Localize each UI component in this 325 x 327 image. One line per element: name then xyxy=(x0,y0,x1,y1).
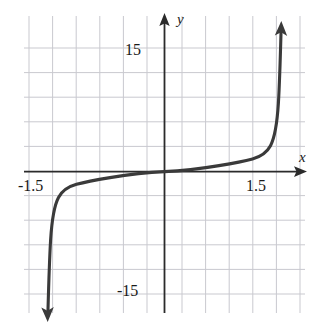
coordinate-plane xyxy=(0,0,325,327)
x-tick-label-positive: 1.5 xyxy=(246,178,266,194)
x-axis-label: x xyxy=(299,150,306,165)
graph-figure: y x 15 -15 -1.5 1.5 xyxy=(0,0,325,327)
y-tick-label-negative: -15 xyxy=(117,283,138,299)
y-axis xyxy=(159,13,169,313)
y-axis-label: y xyxy=(177,12,184,27)
y-tick-label-positive: 15 xyxy=(125,42,141,58)
x-tick-label-negative: -1.5 xyxy=(18,178,43,194)
